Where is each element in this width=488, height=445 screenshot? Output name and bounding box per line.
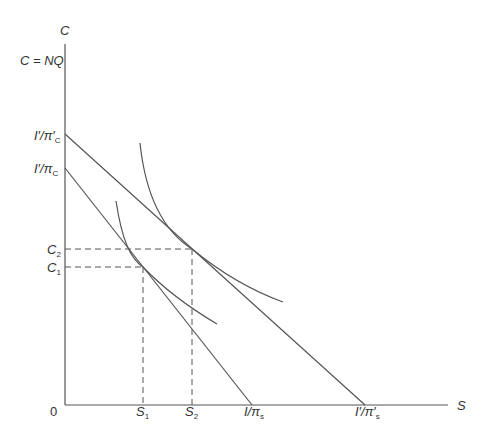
x-tick-s2-sub: 2 [194, 412, 198, 421]
x-tick-lower-intercept-sub: s [260, 412, 264, 421]
x-tick-upper-intercept: I′/π′s [355, 405, 380, 421]
y-axis-label: C [60, 24, 69, 37]
y-tick-lower-intercept-sub: C [52, 169, 58, 178]
indifference-curve-lower [116, 201, 217, 324]
y-tick-upper-intercept-text: I′/π′ [34, 128, 55, 143]
indifference-curve-upper [140, 143, 283, 302]
y-tick-c2: C2 [47, 243, 61, 259]
x-tick-upper-intercept-text: I′/π′ [355, 404, 376, 419]
budget-line-original [65, 168, 252, 405]
y-tick-c2-text: C [47, 242, 56, 257]
x-tick-s2: S2 [185, 405, 198, 421]
diagram: C C = NQ I′/π′C I′/πC C2 C1 0 S1 S2 I/πs… [0, 0, 488, 445]
budget-line-new [65, 134, 365, 405]
x-tick-upper-intercept-sub: s [376, 412, 380, 421]
y-tick-c2-sub: 2 [56, 250, 60, 259]
constraint-label: C = NQ [20, 54, 64, 67]
y-tick-c1: C1 [47, 261, 61, 277]
y-tick-upper-intercept-sub: C [55, 136, 61, 145]
x-tick-lower-intercept: I/πs [244, 405, 264, 421]
x-axis-label: S [457, 399, 466, 412]
y-tick-lower-intercept-text: I′/π [34, 161, 52, 176]
y-tick-upper-intercept: I′/π′C [34, 129, 61, 145]
x-tick-s1-sub: 1 [145, 412, 149, 421]
x-tick-s2-text: S [185, 404, 194, 419]
y-tick-c1-text: C [47, 260, 56, 275]
x-tick-s1: S1 [136, 405, 149, 421]
y-tick-c1-sub: 1 [56, 268, 60, 277]
x-tick-s1-text: S [136, 404, 145, 419]
x-tick-lower-intercept-text: I/π [244, 404, 260, 419]
origin-label: 0 [50, 405, 57, 418]
y-tick-lower-intercept: I′/πC [34, 162, 58, 178]
diagram-canvas [0, 0, 488, 445]
